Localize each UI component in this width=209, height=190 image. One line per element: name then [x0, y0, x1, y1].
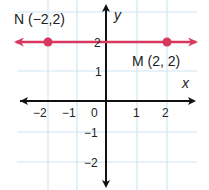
y-axis-label: y [113, 7, 122, 23]
x-axis-label: x [181, 75, 190, 91]
point-N [44, 38, 53, 47]
label-point-N: N (−2,2) [14, 11, 65, 27]
x-tick: 0 [91, 106, 98, 120]
labels: N (−2,2) M (2, 2) y x [14, 7, 190, 91]
x-tick: −2 [33, 106, 47, 120]
point-M [163, 38, 172, 47]
axes [20, 6, 194, 186]
label-point-M: M (2, 2) [132, 53, 180, 69]
y-tick: 2 [94, 36, 101, 50]
y-tick: 1 [95, 65, 102, 79]
y-tick: −2 [84, 156, 98, 170]
y-tick: −1 [84, 126, 98, 140]
x-tick: −1 [62, 106, 76, 120]
x-tick: 1 [133, 106, 140, 120]
x-tick: 2 [162, 106, 169, 120]
coordinate-plane: N (−2,2) M (2, 2) y x −2 −1 0 1 2 2 1 −1… [0, 0, 209, 190]
